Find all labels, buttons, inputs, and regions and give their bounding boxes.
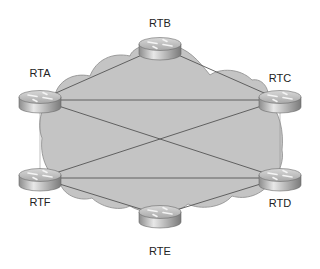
network-diagram: [0, 0, 320, 269]
router-icon-rtc: [259, 91, 301, 114]
router-label-rtd: RTD: [260, 197, 300, 209]
router-label-rtc: RTC: [260, 72, 300, 84]
router-icon-rte: [139, 206, 181, 229]
router-icon-rtb: [139, 38, 181, 61]
router-icon-rtd: [259, 169, 301, 192]
router-label-rte: RTE: [140, 245, 180, 257]
router-label-rta: RTA: [20, 67, 60, 79]
router-icon-rtf: [19, 169, 61, 192]
network-cloud: [40, 43, 283, 212]
router-label-rtb: RTB: [140, 17, 180, 29]
router-icon-rta: [19, 91, 61, 114]
router-label-rtf: RTF: [20, 196, 60, 208]
